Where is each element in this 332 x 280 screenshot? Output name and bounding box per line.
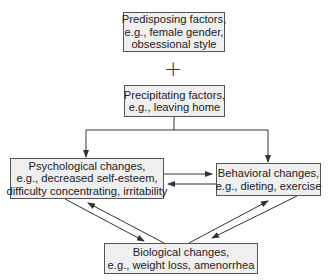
arrow-psych-to-bio [65,199,144,241]
arrow-behavioral-to-bio [212,196,297,238]
arrow-bio-to-psych [88,203,164,243]
node-psychological: Psychological changes, e.g., decreased s… [10,158,164,199]
node-text: e.g., female gender, [125,26,224,39]
node-text: Precipitating factors, [124,89,225,102]
node-text: Behavioral changes, [218,167,319,180]
node-text: e.g., dieting, exercise [216,180,322,193]
node-text: difficulty concentrating, irritability [7,185,168,198]
node-text: Psychological changes, [29,160,146,173]
node-text: e.g., leaving home [129,101,220,114]
plus-operator: + [164,56,182,81]
node-precipitating: Precipitating factors, e.g., leaving hom… [124,85,225,117]
node-behavioral: Behavioral changes, e.g., dieting, exerc… [216,163,321,196]
node-text: e.g., decreased self-esteem, [16,172,157,185]
node-text: Biological changes, [133,246,229,259]
node-text: obsessional style [131,38,216,51]
arrow-bio-to-behavioral [189,201,268,243]
node-text: Predisposing factors, [122,13,226,26]
node-predisposing: Predisposing factors, e.g., female gende… [123,12,225,52]
node-text: e.g., weight loss, amenorrhea [108,259,255,272]
node-biological: Biological changes, e.g., weight loss, a… [104,243,258,274]
